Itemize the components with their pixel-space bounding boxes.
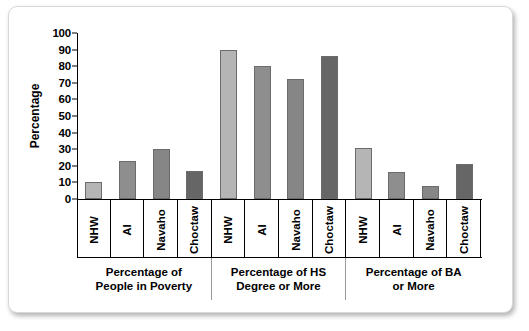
- group-label-line: Percentage of HS: [231, 265, 326, 279]
- category-label-text: AI: [390, 224, 402, 236]
- bar: [388, 172, 405, 199]
- category-label-cell: Navaho: [144, 200, 178, 258]
- category-label-text: Navaho: [155, 209, 167, 251]
- category-label-cell: Navaho: [414, 200, 448, 258]
- category-label-cell: Choctaw: [178, 200, 212, 258]
- bar: [186, 171, 203, 199]
- y-axis-tick-label: 0: [65, 193, 71, 205]
- y-axis-tick-label: 30: [59, 143, 71, 155]
- chart-figure-card: Percentage 0102030405060708090100 NHWAIN…: [8, 6, 513, 313]
- category-label-text: NHW: [222, 216, 234, 243]
- group-label-cell: Percentage ofPeople in Poverty: [77, 258, 212, 300]
- group-label-cell: Percentage of HSDegree or More: [212, 258, 347, 300]
- category-label-text: Choctaw: [188, 206, 200, 254]
- category-label-band: NHWAINavahoChoctawNHWAINavahoChoctawNHWA…: [77, 200, 482, 258]
- bar: [220, 50, 237, 199]
- y-axis-tick-label: 70: [59, 77, 71, 89]
- y-axis-tick-label: 20: [59, 160, 71, 172]
- category-label-cell: Navaho: [279, 200, 313, 258]
- bar: [287, 79, 304, 199]
- group-label-cell: Percentage of BAor More: [346, 258, 481, 300]
- group-label-line: Degree or More: [236, 279, 320, 293]
- bar: [321, 56, 338, 199]
- group-label-line: or More: [393, 279, 435, 293]
- bar: [456, 164, 473, 199]
- y-axis-title-text: Percentage: [28, 84, 42, 149]
- category-label-cell: NHW: [212, 200, 246, 258]
- category-label-text: Navaho: [424, 209, 436, 251]
- y-axis-title: Percentage: [27, 33, 43, 199]
- plot-area: [77, 33, 481, 199]
- bar: [153, 149, 170, 199]
- category-label-text: AI: [121, 224, 133, 236]
- y-axis-tick-label: 40: [59, 127, 71, 139]
- category-label-text: NHW: [88, 216, 100, 243]
- category-label-text: Choctaw: [458, 206, 470, 254]
- category-label-cell: NHW: [346, 200, 380, 258]
- category-label-text: Navaho: [289, 209, 301, 251]
- group-label-band: Percentage ofPeople in PovertyPercentage…: [77, 258, 482, 300]
- bar: [422, 186, 439, 199]
- y-axis-tick-label: 10: [59, 176, 71, 188]
- category-label-text: NHW: [357, 216, 369, 243]
- bar: [254, 66, 271, 199]
- category-label-cell: Choctaw: [447, 200, 481, 258]
- bar: [355, 148, 372, 199]
- category-label-cell: NHW: [77, 200, 111, 258]
- bar: [119, 161, 136, 199]
- y-axis-tick-label: 60: [59, 93, 71, 105]
- bar: [85, 182, 102, 199]
- group-label-line: People in Poverty: [96, 279, 193, 293]
- group-label-line: Percentage of BA: [366, 265, 462, 279]
- y-axis-tick-label: 90: [59, 44, 71, 56]
- category-label-cell: Choctaw: [313, 200, 347, 258]
- group-label-line: Percentage of: [106, 265, 182, 279]
- category-label-cell: AI: [111, 200, 145, 258]
- category-label-text: Choctaw: [323, 206, 335, 254]
- y-axis-tick-label: 50: [59, 110, 71, 122]
- category-label-cell: AI: [245, 200, 279, 258]
- y-axis-tick-label: 100: [52, 27, 71, 39]
- category-label-cell: AI: [380, 200, 414, 258]
- category-label-text: AI: [256, 224, 268, 236]
- y-axis-tick-label: 80: [59, 60, 71, 72]
